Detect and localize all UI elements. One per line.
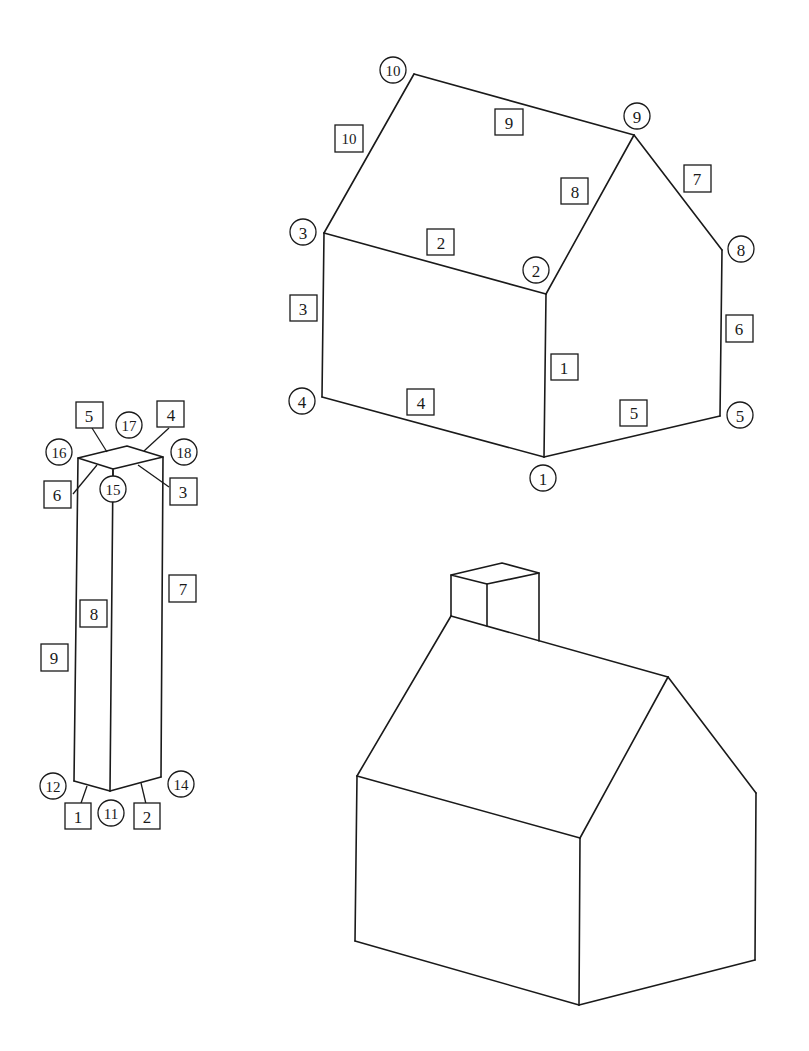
edge-label: 7 <box>684 165 711 192</box>
vertex-label: 1 <box>530 465 556 491</box>
vertex-number: 4 <box>298 393 307 412</box>
combined-front-corner <box>579 838 580 1005</box>
combined-bottom-left <box>355 941 579 1005</box>
combined-right-wall <box>755 793 756 960</box>
vertex-number: 14 <box>174 777 190 793</box>
vertex-number: 12 <box>46 779 61 795</box>
vertex-number: 15 <box>106 482 121 498</box>
edge-line-3 <box>322 233 324 397</box>
vertex-number: 1 <box>539 470 548 489</box>
edge-label: 2 <box>427 229 454 255</box>
chimney-left-vertical <box>74 458 78 781</box>
vertex-label: 4 <box>289 388 315 414</box>
edge-number: 7 <box>693 170 702 189</box>
edge-label: 8 <box>80 600 107 627</box>
combined-gable-left <box>580 677 668 838</box>
edge-number: 6 <box>735 320 744 339</box>
vertex-number: 8 <box>737 241 746 260</box>
vertex-label: 3 <box>290 219 316 245</box>
edge-number: 4 <box>167 406 176 425</box>
vertex-number: 11 <box>104 806 118 822</box>
edge-number: 2 <box>143 808 152 827</box>
edge-number: 3 <box>179 483 188 502</box>
vertex-label: 9 <box>624 103 650 129</box>
vertex-label: 14 <box>168 771 194 797</box>
labeled-chimney: 11 12 14 15 16 17 <box>40 401 197 829</box>
vertex-label: 2 <box>523 257 549 283</box>
labeled-house-edge-labels: 1 2 3 4 5 6 7 <box>290 109 753 426</box>
combined-chimney-top <box>451 563 539 584</box>
edge-label: 9 <box>41 644 68 671</box>
edge-number: 3 <box>299 300 308 319</box>
vertex-label: 12 <box>40 773 66 799</box>
edge-number: 9 <box>50 649 59 668</box>
edge-label: 6 <box>44 481 71 508</box>
edge-line-8 <box>546 135 634 294</box>
edge-label: 4 <box>157 401 184 427</box>
edge-label: 8 <box>561 178 588 204</box>
edge-line-10 <box>324 74 414 233</box>
edge-label: 10 <box>335 125 363 152</box>
edge-line-1 <box>544 294 546 457</box>
edge-label: 7 <box>169 575 196 602</box>
vertex-number: 10 <box>386 63 401 79</box>
vertex-number: 5 <box>736 407 745 426</box>
vertex-label: 11 <box>98 800 124 826</box>
edge-line-9 <box>414 74 634 135</box>
edge-number: 5 <box>630 404 639 423</box>
chimney-vertex-labels: 11 12 14 15 16 17 <box>40 412 197 826</box>
edge-number: 2 <box>437 234 446 253</box>
vertex-label: 18 <box>171 439 197 465</box>
chimney-bottom-left <box>74 781 110 791</box>
edge-label: 1 <box>551 354 578 380</box>
edge-number: 9 <box>505 114 514 133</box>
edge-number: 1 <box>74 808 83 827</box>
edge-number: 1 <box>560 359 569 378</box>
vertex-number: 16 <box>52 445 68 461</box>
combined-ridge <box>451 616 668 677</box>
edge-number: 5 <box>85 407 94 426</box>
vertex-label: 5 <box>727 402 753 428</box>
edge-number: 8 <box>571 183 580 202</box>
edge-number: 10 <box>342 131 357 147</box>
chimney-right-vertical <box>161 457 163 777</box>
edge-number: 7 <box>179 580 188 599</box>
vertex-label: 10 <box>380 57 406 83</box>
edge-line-6 <box>720 250 722 416</box>
vertex-number: 3 <box>299 224 308 243</box>
labeled-house: 1 2 3 4 5 8 9 <box>289 57 754 491</box>
vertex-label: 15 <box>100 476 126 502</box>
combined-house <box>355 563 756 1005</box>
vertex-number: 18 <box>177 445 192 461</box>
vertex-label: 17 <box>116 412 142 438</box>
edge-label: 6 <box>726 315 753 342</box>
combined-left-roof-edge <box>357 616 451 776</box>
vertex-label: 8 <box>728 236 754 262</box>
edge-label: 5 <box>620 400 647 426</box>
edge-label: 4 <box>407 389 434 415</box>
edge-number: 4 <box>417 394 426 413</box>
diagram-canvas: 1 2 3 4 5 8 9 <box>0 0 809 1051</box>
combined-left-wall <box>355 776 357 941</box>
edge-label: 1 <box>65 803 91 829</box>
combined-front-eave <box>357 776 580 838</box>
edge-label: 9 <box>495 109 523 135</box>
edge-number: 8 <box>90 605 99 624</box>
combined-gable-right <box>668 677 756 793</box>
edge-label: 3 <box>290 295 317 321</box>
vertex-label: 16 <box>46 439 72 465</box>
chimney-top-face <box>78 446 163 469</box>
chimney-edge-labels: 1 2 3 4 5 6 7 <box>41 401 197 829</box>
edge-label: 5 <box>76 402 103 428</box>
vertex-number: 9 <box>633 108 642 127</box>
combined-bottom-right <box>579 960 755 1005</box>
vertex-number: 17 <box>122 418 138 434</box>
edge-label: 3 <box>170 478 197 505</box>
edge-number: 6 <box>53 486 62 505</box>
edge-label: 2 <box>134 803 160 829</box>
chimney-bottom-right <box>110 777 161 791</box>
chimney-front-vertical <box>110 469 113 791</box>
vertex-number: 2 <box>532 262 541 281</box>
